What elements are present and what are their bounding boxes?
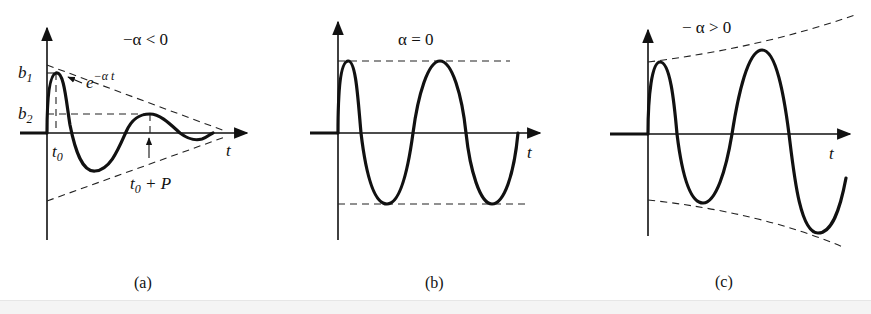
b2-label: b2 (18, 104, 33, 126)
caption-b: (b) (425, 274, 444, 292)
panel-a: −α < 0 b1 b2 e−α t t0 t0 + P t (a) (18, 28, 247, 292)
envelope-pointer (68, 77, 82, 83)
caption-a: (a) (134, 274, 152, 292)
t-axis-label-a: t (226, 141, 232, 160)
growing-response-curve (648, 50, 846, 233)
t0-plus-p-label: t0 + P (130, 174, 171, 196)
panel-b: α = 0 t (b) (310, 22, 540, 292)
t-axis-label-c: t (829, 144, 835, 163)
panel-c: − α > 0 t (c) (610, 15, 855, 291)
upper-envelope (648, 15, 855, 62)
t0-label: t0 (52, 142, 63, 164)
lower-envelope (648, 200, 843, 247)
upper-envelope (47, 65, 225, 131)
caption-c: (c) (715, 273, 733, 291)
bottom-band (0, 300, 871, 314)
condition-label-b: α = 0 (398, 30, 434, 49)
condition-label-a: −α < 0 (123, 30, 168, 49)
t-axis-label-b: t (527, 143, 533, 162)
envelope-label: e−α t (86, 69, 115, 92)
condition-label-c: − α > 0 (682, 18, 731, 37)
damped-response-curve (47, 73, 213, 171)
b1-label: b1 (18, 63, 33, 85)
